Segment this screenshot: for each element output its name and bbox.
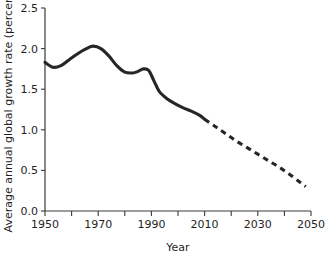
- x-tick-label: 2030: [244, 218, 272, 231]
- y-tick-label: 0.5: [21, 164, 39, 177]
- x-tick-label: 1990: [137, 218, 165, 231]
- chart-figure: 0.00.51.01.52.02.5 195019701990201020302…: [0, 0, 327, 258]
- x-tick-label: 1970: [84, 218, 112, 231]
- x-tick-label: 2050: [297, 218, 325, 231]
- x-axis-ticks: 195019701990201020302050: [31, 211, 325, 231]
- y-tick-label: 1.5: [21, 83, 39, 96]
- series-line-projected: [205, 119, 306, 186]
- y-axis-ticks: 0.00.51.01.52.02.5: [21, 2, 46, 218]
- growth-rate-line-chart: 0.00.51.01.52.02.5 195019701990201020302…: [0, 0, 327, 258]
- y-tick-label: 2.5: [21, 2, 39, 15]
- y-tick-label: 2.0: [21, 43, 39, 56]
- x-axis-title: Year: [165, 241, 190, 254]
- y-tick-label: 0.0: [21, 205, 39, 218]
- x-tick-label: 2010: [191, 218, 219, 231]
- y-tick-label: 1.0: [21, 124, 39, 137]
- series-line-estimated: [45, 46, 205, 119]
- y-axis-title: Average annual global growth rate (perce…: [2, 0, 15, 233]
- x-tick-label: 1950: [31, 218, 59, 231]
